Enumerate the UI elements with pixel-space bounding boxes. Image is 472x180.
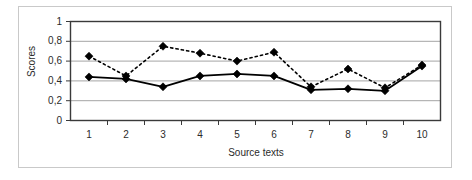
chart-figure: 1 0,8 0,6 0,4 0,2 0 1 2 3 4 5 6 7 8 9 10…: [0, 0, 472, 180]
x-tick-label: 1: [77, 130, 101, 140]
y-tick-label: 0,4: [32, 76, 62, 86]
y-tick-label: 0,8: [32, 36, 62, 46]
y-tick-label: 1: [32, 17, 62, 27]
plot-background: [71, 22, 441, 121]
x-tick-label: 2: [114, 130, 138, 140]
y-tick-label: 0: [32, 116, 62, 126]
x-tick-label: 7: [299, 130, 323, 140]
x-tick-label: 3: [151, 130, 175, 140]
x-tick-label: 5: [225, 130, 249, 140]
y-axis-title: Scores: [26, 27, 37, 97]
x-tick-label: 8: [336, 130, 360, 140]
x-tick-label: 6: [262, 130, 286, 140]
x-axis-title: Source texts: [70, 147, 442, 158]
y-tick-label: 0,2: [32, 96, 62, 106]
x-tick-label: 10: [410, 130, 434, 140]
y-tick-label: 0,6: [32, 56, 62, 66]
x-tick-label: 9: [373, 130, 397, 140]
x-tick-label: 4: [188, 130, 212, 140]
